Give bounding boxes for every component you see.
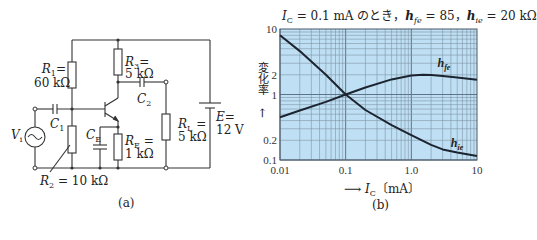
x-tick-label: 10 [472, 164, 484, 176]
x-tick-label: 1.0 [404, 164, 418, 176]
y-axis-arrow: → [255, 108, 269, 118]
y-tick-label: 0.2 [263, 134, 277, 146]
y-axis-label: 変化率 [256, 62, 268, 95]
y-tick-label: 2 [272, 69, 278, 81]
caption-b: (b) [372, 198, 389, 212]
y-tick-label: 1 [272, 89, 278, 101]
x-tick-label: 0.1 [339, 164, 353, 176]
x-axis-label: ⟶ IC〔mA〕 [344, 179, 420, 198]
y-tick-label: 0.1 [263, 154, 277, 166]
y-tick-label: 10 [266, 23, 278, 35]
